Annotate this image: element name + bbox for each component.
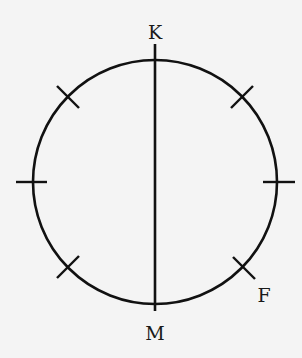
- label-k: K: [148, 21, 163, 43]
- label-f: F: [257, 284, 270, 306]
- tick-mark-lower-right-f: [233, 257, 255, 279]
- label-m: M: [145, 322, 164, 344]
- circle-diagram: K M F: [0, 0, 302, 358]
